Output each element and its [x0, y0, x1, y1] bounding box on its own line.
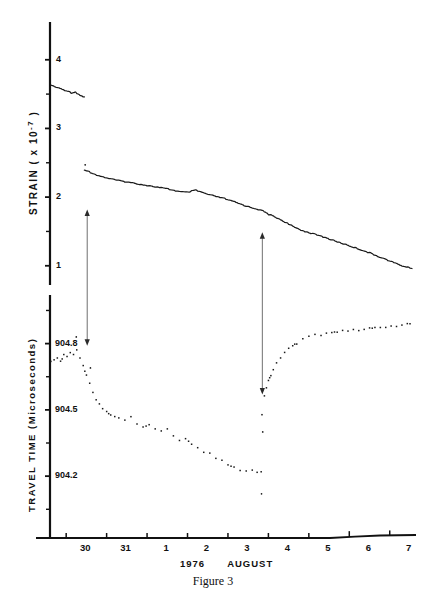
- strain-trace-1: [51, 85, 85, 97]
- travel-time-speck-1: [262, 431, 264, 433]
- travel-time-speck-2: [261, 493, 263, 495]
- strain-axis-title-close: ): [28, 111, 39, 120]
- travel-time-ytick-label: 904.5: [55, 404, 78, 414]
- travel-time-axis-title: TRAVEL TIME (Microseconds): [26, 338, 37, 512]
- strain-axis-title: STRAIN ( x 10-7 ): [26, 111, 39, 215]
- travel-time-ytick-label: 904.8: [55, 338, 78, 348]
- xtick-label: 6: [366, 542, 371, 553]
- xaxis-month: AUGUST: [227, 558, 273, 569]
- strain-trace-2: [84, 170, 412, 268]
- xtick-label: 7: [406, 542, 411, 553]
- xtick-label: 1: [163, 542, 168, 553]
- strain-ytick-label: 2: [56, 191, 61, 201]
- travel-time-trace-2: [261, 323, 411, 416]
- xaxis-line: [36, 535, 416, 538]
- xaxis-title: 1976AUGUST: [180, 558, 273, 569]
- strain-start-pip: [84, 164, 86, 166]
- xtick-label: 3: [244, 542, 249, 553]
- strain-ytick-label: 1: [56, 260, 61, 270]
- event-arrow-1: [85, 209, 90, 345]
- xtick-label: 31: [120, 542, 131, 553]
- strain-ytick-label: 4: [56, 54, 61, 64]
- strain-axis-title-text: STRAIN ( x 10: [28, 130, 39, 215]
- xtick-label: 5: [325, 542, 330, 553]
- travel-time-ytick-label: 904.2: [55, 470, 78, 480]
- travel-time-speck-4: [90, 367, 92, 369]
- xtick-label: 4: [285, 542, 290, 553]
- event-arrow-2: [260, 232, 265, 394]
- figure-3-plot: [0, 0, 427, 593]
- travel-time-trace-1: [50, 349, 262, 473]
- xaxis-year: 1976: [180, 558, 205, 569]
- xtick-label: 2: [204, 542, 209, 553]
- strain-axis-exponent: -7: [26, 120, 35, 130]
- xtick-label: 30: [80, 542, 91, 553]
- strain-ytick-label: 3: [56, 122, 61, 132]
- figure-caption: Figure 3: [193, 574, 233, 589]
